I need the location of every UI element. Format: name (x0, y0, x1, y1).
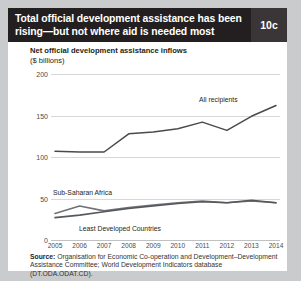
x-axis-tick-2011: 2011 (195, 242, 209, 249)
x-axis-tick-2008: 2008 (121, 242, 136, 249)
figure-container: Total official development assistance ha… (0, 0, 301, 281)
plot-area: 050100150200 All recipientsSub-Saharan A… (30, 74, 280, 240)
figure-number-panel: 10c (251, 8, 287, 42)
chart-header: Total official development assistance ha… (8, 8, 287, 42)
subtitle-line-1: Net official development assistance infl… (30, 46, 280, 56)
series-lines (51, 74, 280, 240)
y-axis-tick-100: 100 (36, 154, 48, 161)
y-axis: 050100150200 (30, 74, 48, 240)
series-label-least-developed-countries: Least Developed Countries (79, 225, 161, 232)
line-sub-saharan-africa (55, 201, 276, 213)
chart-card: Total official development assistance ha… (8, 8, 287, 271)
x-axis-tick-2006: 2006 (72, 242, 87, 249)
chart-title: Total official development assistance ha… (8, 8, 251, 42)
x-axis-tick-2009: 2009 (146, 242, 161, 249)
line-least-developed-countries (55, 200, 276, 217)
source-note: Source: Organisation for Economic Co-ope… (30, 253, 282, 278)
gridline-0 (51, 240, 280, 241)
y-axis-tick-200: 200 (36, 71, 48, 78)
figure-number-badge: 10c (260, 19, 278, 31)
gridlines-and-series: All recipientsSub-Saharan AfricaLeast De… (51, 74, 280, 240)
x-axis-tick-2013: 2013 (244, 242, 259, 249)
source-text: Organisation for Economic Co-operation a… (30, 253, 277, 277)
line-all-recipients (55, 106, 276, 153)
x-axis: 2005200620072008200920102011201220132014 (51, 242, 280, 252)
x-axis-tick-2007: 2007 (97, 242, 112, 249)
x-axis-tick-2014: 2014 (269, 242, 284, 249)
subtitle-units: ($ billions) (30, 56, 280, 66)
x-axis-tick-2005: 2005 (48, 242, 63, 249)
source-label: Source: (30, 253, 55, 260)
x-axis-tick-2012: 2012 (220, 242, 235, 249)
chart-subtitle: Net official development assistance infl… (30, 46, 280, 65)
y-axis-tick-50: 50 (40, 195, 48, 202)
series-label-all-recipients: All recipients (199, 96, 238, 103)
x-axis-tick-2010: 2010 (170, 242, 185, 249)
series-label-sub-saharan-africa: Sub-Saharan Africa (53, 189, 112, 196)
y-axis-tick-150: 150 (36, 112, 48, 119)
